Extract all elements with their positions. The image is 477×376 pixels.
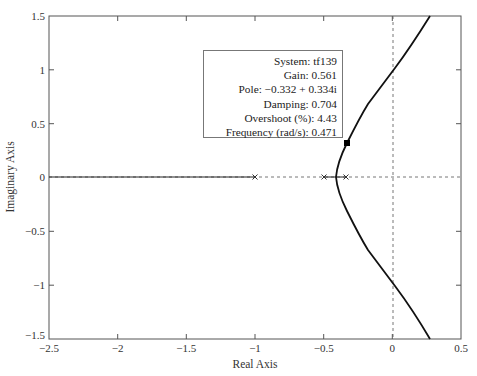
svg-text:0: 0 (390, 342, 396, 354)
svg-text:−0.5: −0.5 (25, 225, 45, 237)
locus-upper-branch[interactable] (336, 16, 430, 177)
datatip-box[interactable]: System: tf139 Gain: 0.561 Pole: −0.332 +… (203, 50, 343, 138)
svg-text:1.5: 1.5 (31, 10, 45, 22)
locus-lower-branch[interactable] (336, 177, 430, 339)
svg-text:0: 0 (40, 171, 46, 183)
datatip-pole: Pole: −0.332 + 0.334i (204, 82, 337, 96)
y-axis-label: Imaginary Axis (4, 141, 17, 213)
x-tick-labels: −2.5 −2 −1.5 −1 −0.5 0 0.5 (39, 342, 468, 354)
svg-text:−1: −1 (249, 342, 261, 354)
datatip-damping: Damping: 0.704 (204, 97, 337, 111)
svg-text:−2.5: −2.5 (39, 342, 59, 354)
svg-text:−2: −2 (112, 342, 124, 354)
svg-text:−1.5: −1.5 (176, 342, 196, 354)
svg-text:−1.5: −1.5 (25, 329, 45, 341)
svg-text:1: 1 (40, 64, 46, 76)
svg-text:0.5: 0.5 (31, 118, 45, 130)
svg-text:−1: −1 (33, 279, 45, 291)
svg-text:0.5: 0.5 (454, 342, 468, 354)
datatip-system: System: tf139 (204, 54, 337, 68)
y-tick-labels: 1.5 1 0.5 0 −0.5 −1 −1.5 (25, 10, 45, 341)
datatip-frequency: Frequency (rad/s): 0.471 (204, 125, 337, 139)
datatip-gain: Gain: 0.561 (204, 68, 337, 82)
x-axis-label: Real Axis (232, 358, 278, 370)
datatip-marker[interactable] (344, 140, 350, 146)
datatip-overshoot: Overshoot (%): 4.43 (204, 111, 337, 125)
svg-text:−0.5: −0.5 (314, 342, 334, 354)
